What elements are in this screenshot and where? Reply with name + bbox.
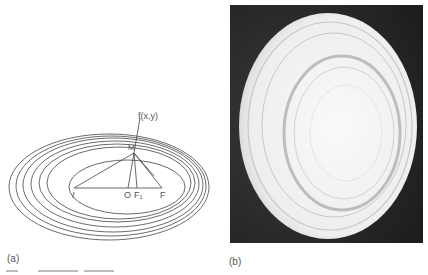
- concentric-ellipses-diagram: [0, 0, 220, 250]
- figure-panel-a: f(x,y) M I O F₁ F (a): [0, 0, 220, 250]
- point-i-label: I: [72, 190, 75, 200]
- elliptical-dish-image: [230, 5, 423, 243]
- point-o-label: O: [124, 190, 131, 200]
- figure-caption-cutoff: [0, 268, 428, 275]
- point-m-label: M: [128, 143, 135, 152]
- point-f1-label: F₁: [134, 190, 143, 200]
- point-f-xy-label: f(x,y): [138, 111, 158, 121]
- figure-panel-b-photo: [230, 5, 423, 243]
- panel-b-label: (b): [229, 256, 241, 267]
- panel-a-label: (a): [7, 253, 19, 264]
- point-f-label: F: [160, 190, 166, 200]
